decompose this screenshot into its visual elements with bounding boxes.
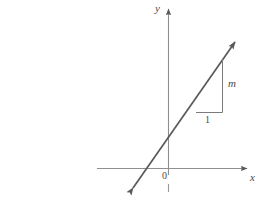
rise-label-m: m [228,78,236,89]
slope-line [133,42,235,188]
slope-diagram: y x m 1 0 [0,0,267,199]
x-axis-label: x [250,172,255,183]
coordinate-plot-svg [0,0,267,199]
origin-label: 0 [162,171,167,181]
y-axis-label: y [155,3,160,14]
run-label-1: 1 [205,115,210,125]
